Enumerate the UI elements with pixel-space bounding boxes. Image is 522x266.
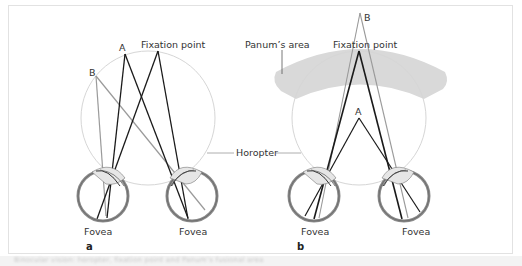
point-b-label: B (89, 67, 96, 78)
left-eye-a (78, 167, 128, 221)
figure-caption: Binocular vision: horopter, fixation poi… (14, 256, 263, 264)
panel-a: A B Fixation point Fovea Fovea a (78, 39, 217, 252)
fovea-left-label-b: Fovea (301, 226, 329, 237)
caption-strip: Binocular vision: horopter, fixation poi… (0, 256, 522, 266)
fovea-right-label-b: Fovea (402, 226, 430, 237)
point-a-label: A (119, 42, 126, 53)
left-eye-b (289, 167, 339, 221)
horopter-circle-a (81, 51, 215, 185)
point-a-label-b: A (355, 106, 362, 117)
horopter-callout: Horopter (207, 147, 301, 158)
panel-b: Panum’s area Fixation point B A Fovea Fo… (245, 12, 447, 252)
point-b-label-b: B (364, 12, 371, 23)
panel-a-label: a (86, 241, 93, 252)
fixation-point-label-b: Fixation point (333, 39, 398, 50)
horopter-label: Horopter (236, 147, 278, 158)
binocular-vision-diagram: A B Fixation point Fovea Fovea a Horopte… (0, 0, 522, 266)
fovea-left-label: Fovea (84, 226, 112, 237)
right-eye-b (379, 167, 429, 221)
fixation-point-label: Fixation point (141, 39, 206, 50)
panums-area-label: Panum’s area (245, 39, 310, 50)
panel-b-label: b (297, 241, 304, 252)
fovea-right-label: Fovea (179, 226, 207, 237)
